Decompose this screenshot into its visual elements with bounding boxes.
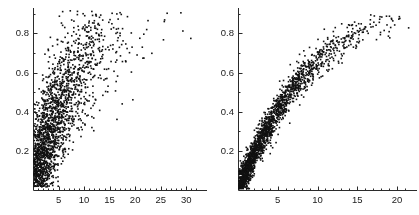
- y-axis-tick-label: 0.4: [16, 107, 29, 117]
- x-axis-tick-label: 30: [181, 195, 192, 205]
- x-axis-tick-label: 20: [392, 195, 403, 205]
- left-panel-canvas: [0, 0, 210, 215]
- x-axis-tick-label: 15: [104, 195, 115, 205]
- right-scatter-panel: 51015200.20.40.60.8: [210, 0, 419, 215]
- x-axis-tick-label: 10: [79, 195, 90, 205]
- left-scatter-panel: 510152025300.20.40.60.8: [0, 0, 210, 215]
- x-axis-tick-label: 10: [312, 195, 323, 205]
- x-axis-tick-label: 5: [275, 195, 280, 205]
- right-panel-canvas: [210, 0, 419, 215]
- x-axis-tick-label: 20: [130, 195, 141, 205]
- y-axis-tick-label: 0.6: [16, 68, 29, 78]
- scatter-plot-figure: 510152025300.20.40.60.8 51015200.20.40.6…: [0, 0, 419, 215]
- y-axis-tick-label: 0.2: [16, 146, 29, 156]
- y-axis-tick-label: 0.8: [16, 29, 29, 39]
- x-axis-tick-label: 15: [352, 195, 363, 205]
- y-axis-tick-label: 0.2: [221, 146, 234, 156]
- y-axis-tick-label: 0.8: [221, 29, 234, 39]
- y-axis-tick-label: 0.4: [221, 107, 234, 117]
- x-axis-tick-label: 5: [56, 195, 61, 205]
- y-axis-tick-label: 0.6: [221, 68, 234, 78]
- x-axis-tick-label: 25: [155, 195, 166, 205]
